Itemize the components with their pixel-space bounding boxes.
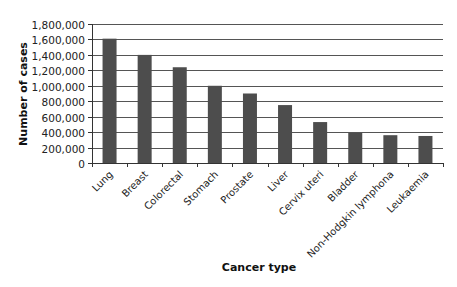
y-tick-label: 200,000 <box>42 143 85 155</box>
x-tick-label: Lung <box>90 169 115 194</box>
y-tick-label: 1,200,000 <box>32 65 85 77</box>
y-tick-label: 800,000 <box>42 96 85 108</box>
bar-liver <box>278 105 292 163</box>
y-axis-title: Number of cases <box>17 42 30 146</box>
bar-prostate <box>243 94 257 164</box>
bar-cervix-uteri <box>313 122 327 163</box>
y-tick-label: 1,800,000 <box>32 19 85 31</box>
y-tick-label: 1,000,000 <box>32 81 85 93</box>
bar-chart: 0200,000400,000600,000800,0001,000,0001,… <box>0 0 457 287</box>
bar-bladder <box>348 133 362 163</box>
x-tick-label: Breast <box>120 169 151 200</box>
bars <box>103 39 433 163</box>
x-tick-label: Stomach <box>181 169 220 208</box>
bar-non-hodgkin-lymphona <box>383 135 397 163</box>
x-tick-label: Liver <box>265 168 291 194</box>
bar-leukaemia <box>418 136 432 163</box>
bar-lung <box>103 39 117 163</box>
y-tick-label: 1,400,000 <box>32 50 85 62</box>
y-axis-ticks: 0200,000400,000600,000800,0001,000,0001,… <box>32 19 92 170</box>
x-tick-label: Bladder <box>325 168 361 204</box>
bar-colorectal <box>173 67 187 163</box>
y-tick-label: 1,600,000 <box>32 34 85 46</box>
y-tick-label: 400,000 <box>42 127 85 139</box>
bar-breast <box>138 55 152 163</box>
y-tick-label: 600,000 <box>42 112 85 124</box>
x-tick-label: Prostate <box>218 169 255 206</box>
y-tick-label: 0 <box>78 158 85 170</box>
x-axis-title: Cancer type <box>222 261 296 274</box>
x-axis-ticks: LungBreastColorectalStomachProstateLiver… <box>90 163 444 260</box>
bar-stomach <box>208 86 222 163</box>
